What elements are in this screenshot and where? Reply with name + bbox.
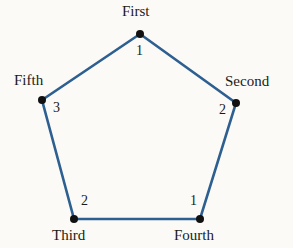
label-fifth: Fifth <box>14 73 43 88</box>
node-second <box>232 99 240 107</box>
node-first <box>136 30 144 38</box>
pentagon-edges <box>42 34 236 219</box>
label-third: Third <box>52 228 85 243</box>
label-first: First <box>122 4 150 19</box>
value-first: 1 <box>136 44 143 58</box>
value-fifth: 3 <box>53 101 60 115</box>
node-fifth <box>38 96 46 104</box>
label-second: Second <box>225 74 269 89</box>
label-fourth: Fourth <box>174 228 214 243</box>
node-fourth <box>196 215 204 223</box>
node-third <box>70 215 78 223</box>
value-fourth: 1 <box>190 194 197 208</box>
value-third: 2 <box>81 194 88 208</box>
pentagon-graph <box>0 0 293 248</box>
value-second: 2 <box>219 103 226 117</box>
